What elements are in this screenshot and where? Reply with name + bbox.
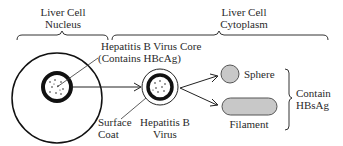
cytoplasm-title-line1: Liver Cell [222, 6, 267, 18]
nucleus-brace [17, 31, 108, 40]
cytoplasm-brace [112, 31, 328, 40]
arrow-virus-to-sphere [180, 76, 217, 88]
sphere-label: Sphere [244, 68, 275, 80]
hepatitis-b-diagram: Liver Cell Nucleus Liver Cell Cytoplasm … [0, 0, 343, 146]
contain-label-line1: Contain [296, 87, 331, 99]
core-label-line1: Hepatitis B Virus Core [101, 40, 201, 52]
contain-brace [285, 69, 292, 130]
nucleus-title-line1: Liver Cell [41, 6, 86, 18]
surface-coat-label-line1: Surface [98, 116, 132, 128]
sphere-particle [221, 65, 239, 83]
filament-particle [222, 98, 277, 115]
surface-coat-label-line2: Coat [98, 128, 119, 140]
contain-label-line2: HBsAg [296, 99, 330, 111]
virus-label-line2: Virus [153, 128, 177, 140]
cytoplasm-title-line2: Cytoplasm [220, 18, 268, 30]
filament-label: Filament [229, 118, 268, 130]
arrow-virus-to-filament [180, 88, 217, 105]
virus-label-line1: Hepatitis B [140, 116, 190, 128]
nucleus-title-line2: Nucleus [45, 18, 81, 30]
diagram-canvas: Liver Cell Nucleus Liver Cell Cytoplasm … [0, 0, 343, 146]
virus-core [148, 75, 172, 99]
core-label-line2: (Contains HBcAg) [98, 52, 181, 65]
